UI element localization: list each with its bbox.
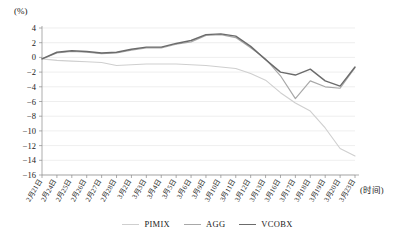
svg-text:−2: −2 [27, 67, 36, 77]
legend-item-pimix: PIMIX [122, 219, 170, 229]
series-line-vcobx [42, 34, 355, 86]
line-chart: (%) 420−2−4−6−8−10−12−14−16 2月21日2月24日2月… [0, 0, 415, 244]
legend-label-agg: AGG [206, 219, 225, 229]
y-axis-ticks: 420−2−4−6−8−10−12−14−16 [23, 23, 42, 180]
svg-text:−14: −14 [23, 155, 37, 165]
svg-text:−12: −12 [23, 141, 36, 151]
svg-text:2: 2 [32, 38, 36, 48]
x-axis-tick-labels: 2月21日2月24日2月25日2月26日2月27日2月28日3月2日3月3日3月… [25, 178, 357, 203]
svg-text:0: 0 [32, 52, 36, 62]
chart-legend: PIMIX AGG VCOBX [0, 219, 415, 229]
legend-item-agg: AGG [184, 219, 225, 229]
x-axis-unit-label: (时间) [360, 183, 384, 195]
svg-text:−10: −10 [23, 126, 36, 136]
svg-text:−6: −6 [27, 97, 36, 107]
svg-text:−8: −8 [27, 111, 36, 121]
svg-text:−16: −16 [23, 170, 36, 180]
series-line-agg [42, 35, 355, 99]
x-axis-ticks [42, 175, 355, 178]
chart-plot-area: 420−2−4−6−8−10−12−14−16 2月21日2月24日2月25日2… [0, 0, 415, 244]
legend-swatch-vcobx [239, 224, 256, 225]
legend-item-vcobx: VCOBX [239, 219, 292, 229]
legend-swatch-agg [184, 224, 201, 225]
legend-label-vcobx: VCOBX [261, 219, 292, 229]
svg-text:4: 4 [32, 23, 37, 33]
axis-lines [42, 26, 359, 175]
svg-text:−4: −4 [27, 82, 37, 92]
legend-label-pimix: PIMIX [144, 219, 170, 229]
legend-swatch-pimix [122, 224, 139, 225]
series-line-pimix [42, 59, 355, 156]
gridlines [42, 28, 355, 175]
data-series-group [42, 34, 355, 156]
